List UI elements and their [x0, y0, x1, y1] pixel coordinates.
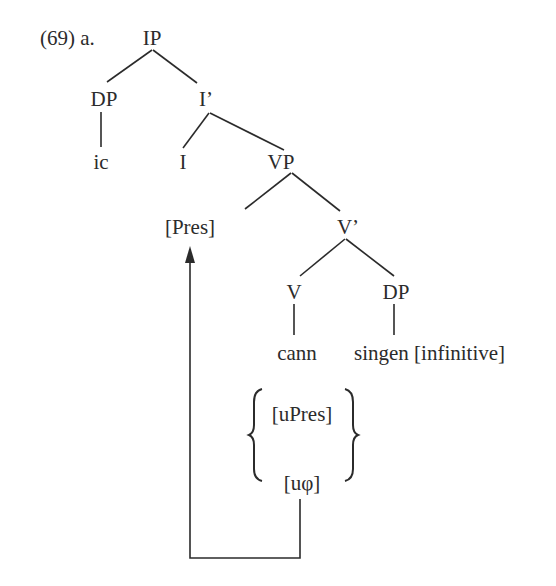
node-v-bar: V’: [337, 217, 359, 238]
tree-branches: [0, 0, 556, 586]
right-brace: [345, 389, 358, 481]
branch-ibar-vp: [210, 113, 284, 150]
branch-vp-spec: [245, 173, 291, 209]
node-ic: ic: [93, 152, 108, 173]
branch-ip-ibar: [153, 50, 197, 83]
node-i-bar: I’: [199, 89, 213, 110]
example-number: (69) a.: [40, 28, 95, 49]
node-ip: IP: [143, 28, 162, 49]
feature-uphi: [uφ]: [284, 473, 321, 494]
node-dp-object: DP: [383, 282, 410, 303]
node-cann: cann: [277, 343, 317, 364]
branch-vbar-dp: [346, 239, 394, 276]
node-i-head: I: [180, 152, 187, 173]
branch-vbar-v: [300, 239, 345, 276]
left-brace: [249, 389, 262, 481]
branch-ibar-i: [183, 113, 209, 148]
branch-vp-vbar: [292, 173, 340, 211]
node-vp: VP: [268, 152, 295, 173]
node-pres: [Pres]: [165, 217, 215, 238]
node-dp-subject: DP: [91, 89, 118, 110]
syntax-tree-diagram: (69) a. IP DP I’ ic I VP [Pres] V’ V DP …: [0, 0, 556, 586]
branch-ip-dp: [107, 50, 152, 82]
node-v-head: V: [286, 282, 301, 303]
arrow-head-icon: [185, 246, 195, 263]
node-singen: singen [infinitive]: [354, 343, 505, 364]
feature-upres: [uPres]: [272, 404, 333, 425]
